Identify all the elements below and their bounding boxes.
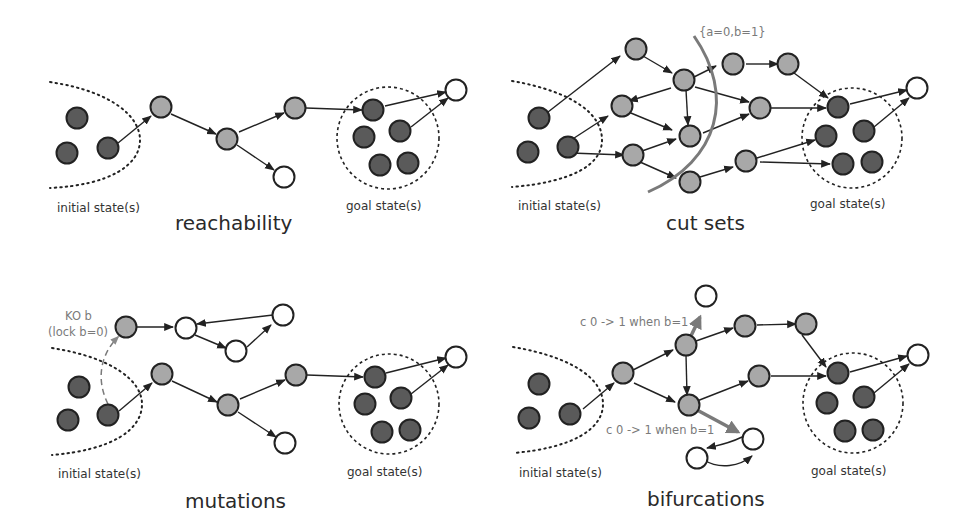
intermediate-node xyxy=(680,126,701,147)
knockout-arrow xyxy=(101,337,118,404)
initial-node xyxy=(98,138,119,159)
intermediate-node xyxy=(735,316,756,337)
panel-bifurcations: c 0 -> 1 when b=1 c 0 -> 1 when b=1 init… xyxy=(513,286,929,512)
panel-title: bifurcations xyxy=(647,487,765,511)
knockout-lock-label: (lock b=0) xyxy=(48,325,108,339)
goal-states-label: goal state(s) xyxy=(347,465,422,479)
intermediate-node xyxy=(626,39,647,60)
initial-node xyxy=(529,374,550,395)
goal-node xyxy=(817,393,838,414)
diagram-canvas: initial state(s) goal state(s) reachabil… xyxy=(0,0,974,530)
initial-node xyxy=(560,404,581,425)
initial-states-label: initial state(s) xyxy=(58,467,141,481)
goal-node xyxy=(354,127,375,148)
panel-mutations: KO b (lock b=0) initial state(s) goal st… xyxy=(48,305,467,514)
intermediate-node xyxy=(778,54,799,75)
cut-set-annotation: {a=0,b=1} xyxy=(699,25,766,39)
terminal-node xyxy=(908,345,929,366)
goal-node xyxy=(355,394,376,415)
goal-node xyxy=(398,153,419,174)
panel-title: mutations xyxy=(185,489,286,513)
goal-node xyxy=(835,421,856,442)
initial-node xyxy=(558,137,579,158)
goal-node xyxy=(816,126,837,147)
bifurcation-label-bottom: c 0 -> 1 when b=1 xyxy=(606,423,714,437)
intermediate-node xyxy=(151,97,172,118)
intermediate-node xyxy=(674,70,695,91)
goal-node xyxy=(363,100,384,121)
intermediate-node xyxy=(623,145,644,166)
intermediate-node xyxy=(152,364,173,385)
initial-region-boundary xyxy=(50,82,140,188)
goal-region-boundary xyxy=(337,87,439,189)
dead-end-node xyxy=(275,433,296,454)
oscillation-node xyxy=(687,448,708,469)
mutant-dead-node xyxy=(226,341,247,362)
intermediate-node xyxy=(680,172,701,193)
initial-states-label: initial state(s) xyxy=(519,466,602,480)
mutant-dead-node xyxy=(176,318,197,339)
initial-node xyxy=(67,108,88,129)
goal-node xyxy=(863,420,884,441)
goal-node xyxy=(400,420,421,441)
intermediate-node xyxy=(723,54,744,75)
intermediate-node xyxy=(676,335,697,356)
initial-node xyxy=(57,143,78,164)
initial-node xyxy=(98,405,119,426)
intermediate-node xyxy=(750,98,771,119)
initial-node xyxy=(519,408,540,429)
initial-states-label: initial state(s) xyxy=(518,199,601,213)
intermediate-node xyxy=(796,314,817,335)
goal-node xyxy=(365,367,386,388)
mutant-node xyxy=(116,317,137,338)
panel-title: reachability xyxy=(175,211,292,235)
terminal-node xyxy=(907,78,928,99)
knockout-label: KO b xyxy=(65,309,92,323)
bifurcation-label-top: c 0 -> 1 when b=1 xyxy=(580,315,688,329)
initial-region-boundary xyxy=(52,348,142,455)
initial-region-boundary xyxy=(512,81,602,187)
panel-title: cut sets xyxy=(666,211,745,235)
goal-node xyxy=(391,388,412,409)
mutant-dead-node xyxy=(273,305,294,326)
goal-node xyxy=(372,422,393,443)
dead-end-node xyxy=(274,167,295,188)
goal-node xyxy=(370,155,391,176)
goal-node xyxy=(833,154,854,175)
panel-cut-sets: {a=0,b=1} initial state(s) goal state(s)… xyxy=(512,25,928,235)
goal-node xyxy=(854,121,875,142)
intermediate-node xyxy=(613,363,634,384)
intermediate-node xyxy=(612,96,633,117)
nodes xyxy=(518,39,928,193)
goal-states-label: goal state(s) xyxy=(810,197,885,211)
initial-region-boundary xyxy=(513,347,603,453)
intermediate-node xyxy=(218,395,239,416)
initial-node xyxy=(518,142,539,163)
panel-reachability: initial state(s) goal state(s) reachabil… xyxy=(50,80,467,236)
intermediate-node xyxy=(286,365,307,386)
goal-node xyxy=(862,152,883,173)
goal-node xyxy=(854,387,875,408)
initial-node xyxy=(529,108,550,129)
terminal-node xyxy=(446,80,467,101)
nodes xyxy=(58,305,467,454)
goal-node xyxy=(390,121,411,142)
goal-node xyxy=(828,363,849,384)
bifurcation-node-bottom xyxy=(743,429,764,450)
goal-states-label: goal state(s) xyxy=(811,464,886,478)
initial-states-label: initial state(s) xyxy=(57,201,140,215)
intermediate-node xyxy=(679,395,700,416)
initial-node xyxy=(69,377,90,398)
intermediate-node xyxy=(217,129,238,150)
intermediate-node xyxy=(749,366,770,387)
terminal-node xyxy=(446,347,467,368)
intermediate-node xyxy=(285,98,306,119)
bifurcation-arrow-top xyxy=(690,317,700,338)
initial-node xyxy=(58,410,79,431)
cut-line xyxy=(648,36,716,192)
bifurcation-node-top xyxy=(696,286,717,307)
goal-node xyxy=(828,97,849,118)
intermediate-node xyxy=(736,151,757,172)
goal-states-label: goal state(s) xyxy=(346,199,421,213)
nodes xyxy=(519,286,929,469)
